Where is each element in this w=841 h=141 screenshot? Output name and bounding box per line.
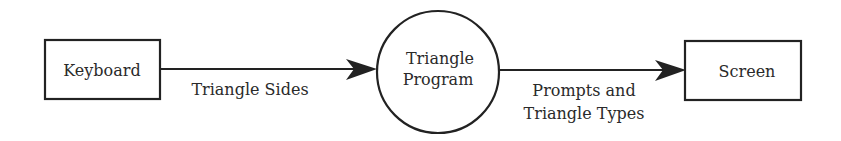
flow-label-line1: Prompts and (532, 81, 635, 100)
keyboard-node: Keyboard (45, 40, 160, 99)
screen-node: Screen (685, 41, 801, 100)
program-label-line1: Triangle (406, 49, 474, 68)
flow-label-line2: Triangle Types (524, 104, 645, 123)
flow-label-triangle-sides: Triangle Sides (191, 80, 308, 99)
data-flow-diagram: Keyboard Triangle Sides Triangle Program… (0, 0, 841, 141)
flow-prompts-and-types: Prompts and Triangle Types (499, 60, 686, 123)
program-label-line2: Program (403, 70, 474, 89)
keyboard-label: Keyboard (63, 61, 140, 80)
screen-label: Screen (719, 62, 776, 81)
program-node: Triangle Program (377, 11, 499, 133)
flow-triangle-sides: Triangle Sides (160, 59, 377, 99)
